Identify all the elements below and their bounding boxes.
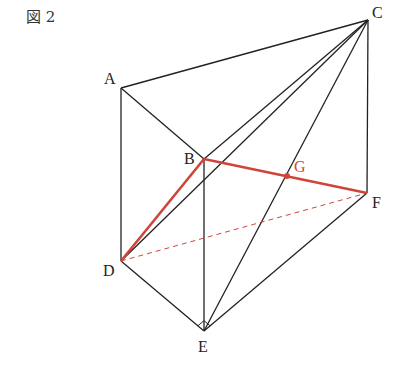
red-edge-db	[121, 159, 204, 261]
red-dashed-edges	[121, 193, 367, 261]
black-edges	[121, 20, 368, 331]
edge-cf	[367, 20, 368, 193]
edge-ab	[121, 88, 204, 159]
label-e: E	[198, 338, 208, 355]
prism-diagram: A B C D E F G	[0, 0, 406, 381]
label-d: D	[103, 262, 115, 279]
label-b: B	[184, 150, 195, 167]
edge-ac	[121, 20, 368, 88]
dashed-edge-df	[121, 193, 367, 261]
label-c: C	[372, 4, 383, 21]
point-g-dot	[284, 173, 290, 179]
edge-de	[121, 261, 204, 331]
red-edges	[121, 159, 367, 261]
label-f: F	[372, 194, 381, 211]
label-g: G	[294, 158, 306, 175]
edge-bc	[204, 20, 368, 159]
edge-ef	[204, 193, 367, 331]
edge-cd	[121, 20, 368, 261]
label-a: A	[104, 70, 116, 87]
